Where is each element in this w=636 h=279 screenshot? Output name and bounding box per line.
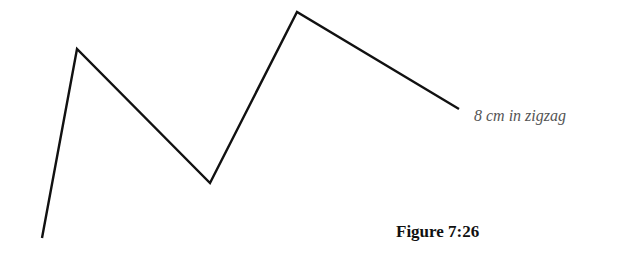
figure-canvas: 8 cm in zigzag Figure 7:26 bbox=[0, 0, 636, 279]
figure-caption: Figure 7:26 bbox=[396, 222, 479, 242]
zigzag-diagram bbox=[0, 0, 636, 279]
zigzag-line bbox=[42, 12, 459, 238]
zigzag-length-label: 8 cm in zigzag bbox=[474, 107, 566, 125]
